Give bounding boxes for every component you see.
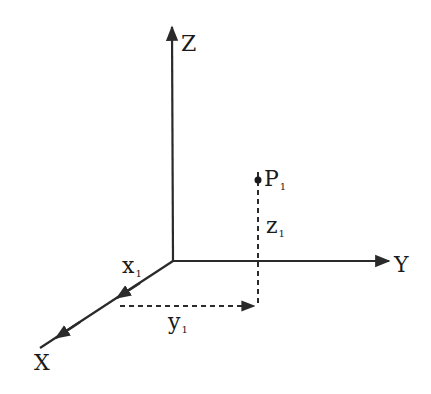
point-label: P [264, 166, 279, 191]
y1-label: y1 [168, 311, 188, 335]
y1-subscript: 1 [181, 324, 187, 335]
z-axis-label: Z [181, 33, 196, 55]
x1-label: x1 [122, 255, 142, 279]
y-axis-label: Y [394, 254, 409, 276]
z1-subscript: 1 [279, 228, 285, 239]
y1-letter: y [168, 309, 180, 334]
point-subscript: 1 [280, 181, 286, 192]
coordinate-diagram [0, 0, 431, 394]
z1-label: z1 [266, 215, 285, 239]
x1-letter: x [122, 253, 134, 278]
x-axis-label: X [34, 352, 50, 374]
z-axis [172, 27, 173, 261]
x-axis-arrow-far [56, 322, 80, 338]
x1-subscript: 1 [135, 268, 141, 279]
point-p1 [255, 177, 262, 184]
x1-component-arrow [117, 283, 140, 298]
z1-letter: z [266, 213, 278, 238]
point-p1-label: P1 [264, 168, 286, 192]
